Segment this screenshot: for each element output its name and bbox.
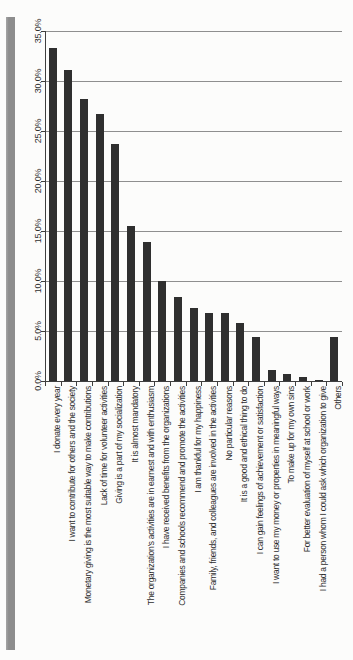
value-axis-label: 35.0% <box>33 19 43 44</box>
page: 0.0%5.0%10.0%15.0%20.0%25.0%30.0%35.0% I… <box>0 0 353 660</box>
category-label-1: I donate every year <box>52 386 62 453</box>
bar-11 <box>205 313 213 381</box>
gridline <box>45 231 342 232</box>
category-label-13: It is a good and ethical thing to do <box>239 386 249 502</box>
bar-6 <box>127 226 135 381</box>
category-label-3: Monetary giving is the most suitable way… <box>83 386 93 603</box>
bar-3 <box>80 99 88 381</box>
bar-17 <box>299 377 307 381</box>
bar-15 <box>268 370 276 381</box>
category-label-5: Giving is a part of my socialization <box>114 386 124 504</box>
category-label-16: To make up for my own sins <box>286 386 296 484</box>
bar-18 <box>315 380 323 381</box>
category-label-14: I can gain feelings of achievement or sa… <box>255 386 265 554</box>
bar-12 <box>221 313 229 381</box>
value-axis-label: 30.0% <box>33 69 43 94</box>
category-label-17: For better evaluation of myself at schoo… <box>302 386 312 552</box>
category-label-4: Lack of time for volunteer activities <box>99 386 109 505</box>
bar-16 <box>283 374 291 381</box>
x-axis-line <box>45 381 342 382</box>
gridline <box>45 281 342 282</box>
value-axis-label: 10.0% <box>33 269 43 294</box>
category-label-11: Family, friends, and colleagues are invo… <box>208 386 218 590</box>
bar-7 <box>143 242 151 381</box>
bar-19 <box>330 337 338 381</box>
value-axis-label: 5.0% <box>33 321 43 341</box>
category-label-15: I want to use my money or properties in … <box>271 386 281 584</box>
category-label-2: I want to contribute for others and the … <box>67 386 77 542</box>
category-label-19: Others <box>333 386 343 410</box>
value-axis-label: 15.0% <box>33 219 43 244</box>
gridline <box>45 31 342 32</box>
category-label-10: I am thankful for my happiness <box>193 386 203 493</box>
value-axis-label: 25.0% <box>33 119 43 144</box>
category-label-8: I have received benefits from the organi… <box>161 386 171 548</box>
gridline <box>45 131 342 132</box>
bar-5 <box>111 144 119 381</box>
bar-chart: 0.0%5.0%10.0%15.0%20.0%25.0%30.0%35.0% I… <box>0 0 353 660</box>
category-label-9: Companies and schools recommend and prom… <box>177 386 187 606</box>
gridline <box>45 181 342 182</box>
bar-14 <box>252 337 260 381</box>
category-axis-tick <box>45 382 46 386</box>
bar-2 <box>64 70 72 381</box>
gridline <box>45 81 342 82</box>
bar-1 <box>49 48 57 381</box>
category-label-6: It is almost mandatory <box>130 386 140 463</box>
bar-4 <box>96 114 104 381</box>
category-label-7: The organization's activities are in ear… <box>146 386 156 605</box>
bar-10 <box>190 308 198 381</box>
bar-8 <box>158 281 166 381</box>
y-axis-line <box>45 31 46 382</box>
bar-9 <box>174 297 182 381</box>
category-label-12: No particular reasons <box>224 386 234 461</box>
bar-13 <box>236 323 244 381</box>
category-label-18: I had a person whom I could ask which or… <box>318 386 328 591</box>
value-axis-label: 0.0% <box>33 371 43 391</box>
value-axis-label: 20.0% <box>33 169 43 194</box>
